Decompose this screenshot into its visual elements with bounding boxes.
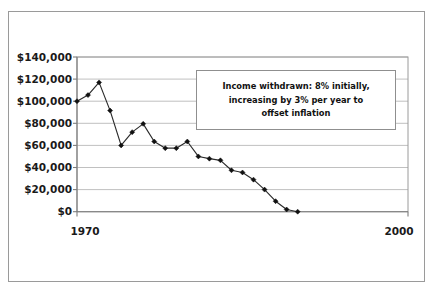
annotation-line-1: Income withdrawn: 8% initially,	[222, 81, 369, 91]
data-point-marker	[163, 146, 168, 151]
y-tick-label-120000: $120,000	[17, 73, 72, 85]
chart-figure: $140,000 $120,000 $100,000 $80,000 $60,0…	[0, 0, 437, 293]
annotation-income-withdrawal: Income withdrawn: 8% initially, increasi…	[197, 71, 396, 130]
y-tick-label-60000: $60,000	[24, 139, 72, 151]
y-tick-label-20000: $20,000	[24, 183, 72, 195]
plot-wrapper: $140,000 $120,000 $100,000 $80,000 $60,0…	[0, 0, 437, 293]
x-tick-label-1970: 1970	[70, 225, 99, 237]
y-tick-label-80000: $80,000	[24, 117, 72, 129]
y-tick-label-40000: $40,000	[24, 161, 72, 173]
line-chart-svg: $140,000 $120,000 $100,000 $80,000 $60,0…	[0, 0, 437, 293]
x-tick-label-2000: 2000	[384, 225, 413, 237]
data-point-marker	[295, 209, 300, 214]
data-point-marker	[108, 108, 113, 113]
y-tick-label-0: $0	[57, 205, 72, 217]
y-tick-label-100000: $100,000	[17, 95, 72, 107]
annotation-line-3: offset inflation	[262, 108, 331, 118]
annotation-line-2: increasing by 3% per year to	[229, 95, 364, 105]
data-point-marker	[75, 99, 80, 104]
data-point-marker	[174, 146, 179, 151]
data-point-marker	[207, 156, 212, 161]
y-tick-label-140000: $140,000	[17, 51, 72, 63]
